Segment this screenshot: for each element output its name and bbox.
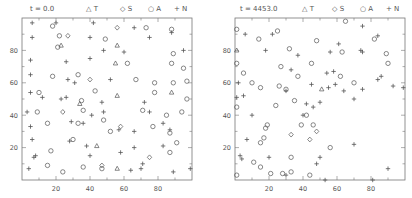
- marker-a: [311, 123, 315, 127]
- marker-n: [28, 124, 32, 128]
- marker-n: [311, 105, 315, 109]
- marker-s: [88, 77, 92, 82]
- marker-a: [308, 173, 312, 177]
- marker-t: [95, 144, 99, 148]
- marker-n: [84, 144, 88, 148]
- marker-s: [289, 132, 293, 137]
- marker-a: [57, 34, 61, 38]
- marker-a: [49, 149, 53, 153]
- marker-n: [69, 119, 73, 123]
- marker-n: [25, 110, 29, 114]
- marker-a: [314, 38, 318, 42]
- marker-t: [320, 87, 324, 91]
- marker-s: [314, 129, 318, 134]
- marker-a: [93, 89, 97, 93]
- marker-a: [328, 145, 332, 149]
- marker-n: [236, 81, 240, 85]
- marker-n: [118, 150, 122, 154]
- marker-a: [258, 141, 262, 145]
- marker-a: [151, 124, 155, 128]
- marker-n: [30, 35, 34, 39]
- marker-a: [81, 165, 85, 169]
- marker-n: [337, 42, 341, 46]
- y-tick-label: 20: [223, 144, 231, 152]
- marker-a: [50, 24, 54, 28]
- marker-a: [250, 81, 254, 85]
- marker-a: [76, 121, 80, 125]
- y-tick-label: 80: [10, 47, 18, 55]
- marker-a: [258, 85, 262, 89]
- marker-t: [115, 166, 119, 170]
- marker-n: [132, 129, 136, 133]
- marker-n: [81, 121, 85, 125]
- marker-a: [241, 71, 245, 75]
- marker-n: [147, 35, 151, 39]
- marker-n: [101, 48, 105, 52]
- marker-a: [309, 61, 313, 65]
- marker-n: [88, 154, 92, 158]
- marker-n: [331, 69, 335, 73]
- marker-n: [250, 113, 254, 117]
- marker-n: [27, 166, 31, 170]
- marker-a: [175, 141, 179, 145]
- marker-n: [352, 97, 356, 101]
- marker-n: [88, 35, 92, 39]
- marker-t: [115, 43, 119, 47]
- marker-a: [338, 74, 342, 78]
- marker-a: [164, 113, 168, 117]
- marker-s: [147, 155, 151, 160]
- marker-n: [328, 50, 332, 54]
- marker-a: [141, 108, 145, 112]
- marker-n: [171, 170, 175, 174]
- marker-n: [342, 89, 346, 93]
- marker-a: [100, 166, 104, 170]
- marker-n: [296, 53, 300, 57]
- marker-n: [30, 21, 34, 25]
- panel-left: t = 0.0 △ T ◇ S ○ A + N 2040608020406080: [0, 0, 206, 198]
- marker-n: [66, 77, 70, 81]
- marker-s: [66, 33, 70, 38]
- y-tick-label: 40: [223, 112, 231, 120]
- y-tick-label: 60: [223, 79, 231, 87]
- marker-n: [91, 21, 95, 25]
- marker-n: [129, 168, 133, 172]
- marker-n: [318, 155, 322, 159]
- x-tick-label: 20: [52, 185, 60, 193]
- marker-n: [263, 48, 267, 52]
- marker-a: [144, 26, 148, 30]
- x-tick-label: 80: [154, 185, 162, 193]
- marker-n: [245, 137, 249, 141]
- marker-n: [122, 50, 126, 54]
- marker-a: [287, 47, 291, 51]
- marker-n: [326, 85, 330, 89]
- marker-n: [289, 68, 293, 72]
- marker-a: [279, 64, 283, 68]
- marker-s: [61, 110, 65, 115]
- y-tick-label: 60: [10, 79, 18, 87]
- marker-n: [243, 32, 247, 36]
- marker-n: [309, 82, 313, 86]
- marker-a: [169, 61, 173, 65]
- marker-a: [262, 136, 266, 140]
- y-tick-label: 20: [10, 144, 18, 152]
- marker-n: [161, 144, 165, 148]
- marker-n: [304, 102, 308, 106]
- scatter-plot-left: 2040608020406080: [0, 0, 206, 198]
- marker-a: [289, 170, 293, 174]
- x-tick-label: 60: [120, 185, 128, 193]
- marker-s: [115, 25, 119, 30]
- marker-a: [257, 37, 261, 41]
- marker-a: [372, 37, 376, 41]
- marker-a: [101, 118, 105, 122]
- marker-n: [379, 74, 383, 78]
- marker-t: [115, 93, 119, 97]
- marker-t: [113, 61, 117, 65]
- marker-a: [50, 74, 54, 78]
- marker-n: [59, 97, 63, 101]
- marker-n: [64, 60, 68, 64]
- marker-n: [352, 142, 356, 146]
- marker-n: [108, 77, 112, 81]
- y-tick-label: 40: [10, 112, 18, 120]
- marker-a: [76, 73, 80, 77]
- marker-n: [325, 71, 329, 75]
